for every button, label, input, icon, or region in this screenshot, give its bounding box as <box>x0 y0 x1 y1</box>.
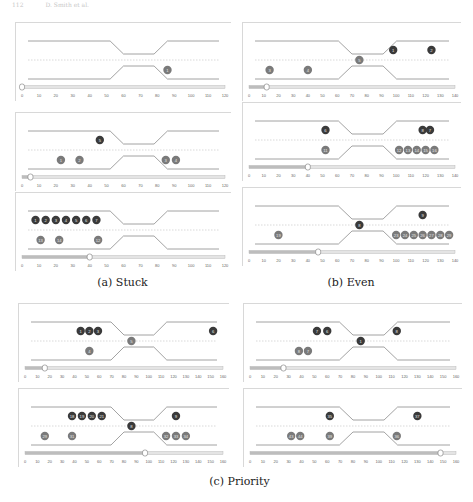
vehicle-marker: 4 <box>62 216 70 224</box>
slider-handle[interactable] <box>143 450 148 456</box>
slider-handle[interactable] <box>28 174 33 180</box>
slider-handle[interactable] <box>305 164 310 170</box>
time-slider[interactable] <box>20 84 226 90</box>
axis-tick-label: 60 <box>325 459 330 464</box>
axis-tick-label: 100 <box>145 459 152 464</box>
time-slider[interactable] <box>249 84 455 90</box>
axis-tick-label: 60 <box>335 258 340 263</box>
caption-stuck: (a) Stuck <box>15 276 230 289</box>
vehicle-marker: 2 <box>41 216 49 224</box>
simulation-panel-c4: 3537434439360102030405060708090100110120… <box>243 388 462 467</box>
slider-handle[interactable] <box>20 84 25 90</box>
axis-tick-label: 40 <box>87 263 92 268</box>
vehicle-label: 37 <box>415 414 420 419</box>
axis-tick-label: 90 <box>364 459 369 464</box>
vehicle-label: 29 <box>42 434 47 439</box>
axis-tick-label: 150 <box>207 374 214 379</box>
time-slider[interactable] <box>25 365 223 371</box>
vehicle-marker: 21 <box>98 412 106 420</box>
axis-tick-label: 80 <box>155 263 160 268</box>
vehicle-marker: 16 <box>430 146 438 154</box>
time-slider[interactable] <box>250 450 456 456</box>
axis-tick-label: 100 <box>375 374 382 379</box>
axis-tick-label: 30 <box>286 459 291 464</box>
slider-handle[interactable] <box>438 450 443 456</box>
vehicle-marker: 1 <box>163 66 171 74</box>
axis-tick-label: 90 <box>379 258 384 263</box>
vehicle-marker: 1 <box>57 156 65 164</box>
axis-tick-label: 10 <box>37 93 42 98</box>
axis-tick-label: 0 <box>21 263 24 268</box>
axis-tick-label: 20 <box>54 93 59 98</box>
axis-tick-label: 60 <box>97 459 102 464</box>
axis-tick-label: 120 <box>401 374 408 379</box>
slider-handle[interactable] <box>42 365 47 371</box>
axis-tick-label: 10 <box>35 374 40 379</box>
axis-tick-label: 140 <box>195 374 202 379</box>
vehicle-label: 31 <box>70 434 75 439</box>
time-axis: 0102030405060708090100110120 <box>21 263 229 268</box>
slider-handle[interactable] <box>316 249 321 255</box>
axis-tick-label: 50 <box>312 459 317 464</box>
axis-tick-label: 20 <box>276 258 281 263</box>
vehicle-label: 21 <box>99 414 104 419</box>
vehicle-marker: 36 <box>393 432 401 440</box>
simulation-panel-c3: 1819202198293132333401020304050607080901… <box>18 388 229 467</box>
simulation-panel-a1: 10102030405060708090100110120 <box>15 22 231 101</box>
time-slider[interactable] <box>250 365 456 371</box>
axis-tick-label: 40 <box>72 459 77 464</box>
axis-tick-label: 90 <box>379 173 384 178</box>
axis-tick-label: 150 <box>440 374 447 379</box>
axis-tick-label: 50 <box>104 263 109 268</box>
slider-handle[interactable] <box>87 254 92 260</box>
axis-tick-label: 60 <box>335 93 340 98</box>
axis-tick-label: 10 <box>261 459 266 464</box>
axis-tick-label: 70 <box>138 183 143 188</box>
axis-tick-label: 40 <box>87 93 92 98</box>
time-slider[interactable] <box>22 254 225 260</box>
vehicle-marker: 1 <box>31 216 39 224</box>
vehicle-label: 12 <box>96 238 101 243</box>
time-slider[interactable] <box>22 174 225 180</box>
axis-tick-label: 20 <box>276 173 281 178</box>
axis-tick-label: 40 <box>306 93 311 98</box>
axis-tick-label: 110 <box>388 459 395 464</box>
vehicle-marker: 39 <box>326 432 334 440</box>
time-axis: 0102030405060708090100110120130140150160 <box>24 459 227 464</box>
vehicle-marker: 9 <box>172 412 180 420</box>
axis-tick-label: 140 <box>427 459 434 464</box>
time-slider[interactable] <box>249 249 455 255</box>
axis-tick-label: 30 <box>291 173 296 178</box>
vehicle-marker: 44 <box>296 432 304 440</box>
axis-tick-label: 80 <box>364 173 369 178</box>
axis-tick-label: 70 <box>350 258 355 263</box>
slider-handle[interactable] <box>281 365 286 371</box>
vehicle-marker: 23 <box>392 231 400 239</box>
vehicle-marker: 5 <box>127 337 135 345</box>
vehicle-label: 44 <box>298 434 303 439</box>
axis-tick-label: 10 <box>37 183 42 188</box>
axis-tick-label: 110 <box>205 183 212 188</box>
axis-tick-label: 100 <box>188 183 195 188</box>
time-axis: 0102030405060708090100110120 <box>21 93 229 98</box>
vehicle-marker: 6 <box>82 216 90 224</box>
vehicle-marker: 35 <box>326 412 334 420</box>
slider-handle[interactable] <box>264 84 269 90</box>
vehicle-marker: 31 <box>68 432 76 440</box>
axis-tick-label: 160 <box>453 374 460 379</box>
caption-even: (b) Even <box>242 276 460 289</box>
axis-tick-label: 60 <box>335 173 340 178</box>
axis-tick-label: 60 <box>121 183 126 188</box>
vehicle-label: 27 <box>429 233 434 238</box>
simulation-panel-b3: 9819232425262728290102030405060708090100… <box>242 187 461 266</box>
vehicle-label: 12 <box>397 148 402 153</box>
time-slider[interactable] <box>249 164 455 170</box>
vehicle-marker: 8 <box>355 221 363 229</box>
vehicle-marker: 7 <box>92 216 100 224</box>
simulation-panel-b1: 125340102030405060708090100110120130140 <box>242 22 461 101</box>
time-slider[interactable] <box>25 450 223 456</box>
axis-tick-label: 60 <box>121 263 126 268</box>
axis-tick-label: 70 <box>338 459 343 464</box>
vehicle-marker: 2 <box>85 327 93 335</box>
vehicle-label: 28 <box>438 233 443 238</box>
